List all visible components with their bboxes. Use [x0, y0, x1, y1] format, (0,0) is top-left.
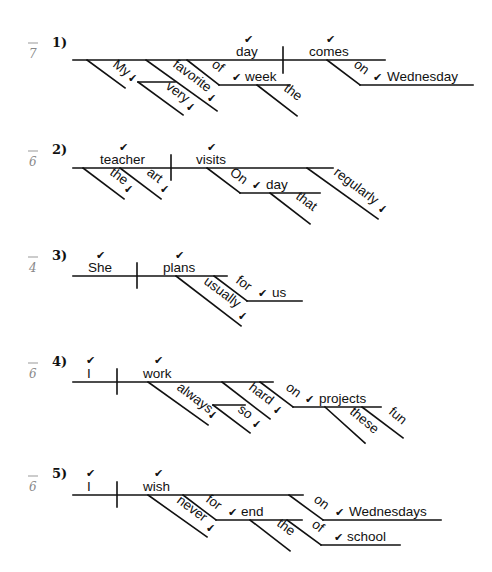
verb-word-3: plans [163, 260, 196, 275]
object-word: school [347, 529, 386, 544]
check-icon: ✔ [128, 72, 137, 85]
diagram-4: 6 4) ✔ I ✔ work always ✔ hard ✔ so ✔ on … [28, 354, 410, 443]
modifier-word: never [174, 492, 210, 525]
check-icon: ✔ [160, 183, 169, 196]
modifier-word: regularly [331, 164, 382, 207]
score-1: 7 [29, 47, 37, 61]
object-word: projects [319, 391, 367, 406]
check-icon: ✔ [206, 522, 215, 535]
check-icon: ✔ [258, 287, 267, 300]
score-5: 6 [29, 480, 37, 494]
preposition-word: for [233, 272, 255, 294]
object-word: week [244, 69, 277, 84]
check-icon: ✔ [305, 393, 314, 406]
item-number-5: 5) [52, 466, 67, 481]
diagram-3: 4 3) ✔ She ✔ plans usually ✔ for ✔ us [28, 248, 302, 326]
check-icon: ✔ [252, 418, 261, 431]
subject-word-5: I [87, 479, 91, 494]
item-number-4: 4) [52, 354, 67, 369]
subject-word-4: I [87, 366, 91, 381]
check-icon: ✔ [124, 183, 133, 196]
check-icon: ✔ [378, 203, 387, 216]
object-word: Wednesdays [349, 504, 427, 519]
check-icon: ✔ [232, 71, 241, 84]
check-icon: ✔ [252, 179, 261, 192]
check-icon: ✔ [335, 506, 344, 519]
modifier-word: the [281, 80, 305, 103]
verb-word-1: comes [309, 44, 349, 59]
diagram-2: 6 2) ✔ teacher ✔ visits the ✔ art ✔ On ✔… [28, 141, 387, 224]
check-icon: ✔ [273, 404, 282, 417]
verb-word-5: wish [142, 479, 170, 494]
check-icon: ✔ [208, 409, 217, 422]
modifier-word: fun [386, 404, 410, 428]
subject-word-2: teacher [100, 152, 146, 167]
modifier-word: the [274, 515, 298, 538]
object-word: us [272, 285, 287, 300]
object-word: day [266, 177, 288, 192]
check-icon: ✔ [186, 101, 195, 114]
item-number-3: 3) [52, 248, 67, 263]
score-3: 4 [28, 261, 37, 275]
diagram-1: 7 1) ✔ day ✔ comes My ✔ favorite ✔ very … [28, 33, 473, 116]
subject-word-1: day [236, 44, 258, 59]
object-word: Wednesday [387, 69, 458, 84]
preposition-word: on [283, 379, 304, 400]
diagram-5: 6 5) ✔ I ✔ wish never ✔ for ✔ end the on… [28, 466, 441, 551]
preposition-word: on [311, 491, 332, 512]
subject-word-3: She [88, 260, 112, 275]
check-icon: ✔ [228, 506, 237, 519]
object-word: end [241, 504, 264, 519]
verb-word-4: work [142, 366, 172, 381]
score-4: 6 [29, 367, 37, 381]
score-2: 6 [29, 155, 37, 169]
sentence-diagram-worksheet: 7 1) ✔ day ✔ comes My ✔ favorite ✔ very … [0, 0, 492, 572]
item-number-1: 1) [52, 35, 67, 50]
item-number-2: 2) [52, 142, 67, 157]
check-icon: ✔ [334, 531, 343, 544]
verb-word-2: visits [196, 152, 226, 167]
check-icon: ✔ [373, 71, 382, 84]
check-icon: ✔ [207, 92, 216, 105]
check-icon: ✔ [238, 310, 247, 323]
